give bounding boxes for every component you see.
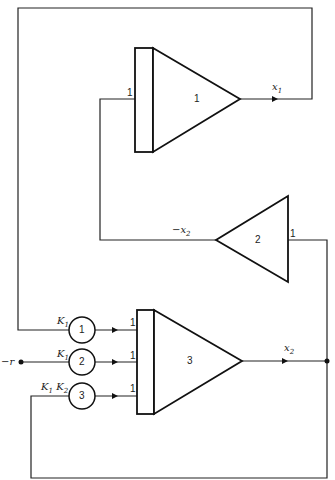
amp1-input-gain: 1 bbox=[127, 88, 133, 98]
x2-label: x2 bbox=[284, 343, 294, 356]
amp3-triangle bbox=[154, 310, 242, 414]
arrow-pot1 bbox=[112, 327, 118, 333]
arrow-x2 bbox=[282, 358, 288, 364]
pot3-coef: K1 K2 bbox=[41, 382, 68, 395]
pot1-label: 1 bbox=[79, 325, 85, 335]
junction-dot bbox=[325, 359, 330, 364]
pot2-coef: K1 bbox=[57, 349, 69, 362]
diagram-canvas: 1 1 x1 2 1 −x2 3 1 1 1 x2 1 2 3 K1 K1 K1… bbox=[0, 0, 335, 480]
amp3-summing-block bbox=[137, 310, 154, 414]
pot3-label: 3 bbox=[79, 391, 85, 401]
pot2-label: 2 bbox=[79, 357, 85, 367]
amp2-triangle bbox=[216, 196, 288, 282]
neg-x2-label: −x2 bbox=[172, 225, 191, 238]
amp1-label: 1 bbox=[194, 94, 200, 104]
amp2-label: 2 bbox=[255, 235, 261, 245]
amp3-gain-3: 1 bbox=[130, 384, 136, 394]
pot1-coef: K1 bbox=[57, 316, 69, 329]
arrow-pot3 bbox=[112, 393, 118, 399]
arrow-x1 bbox=[272, 96, 278, 102]
input-r-label: −r bbox=[1, 357, 14, 367]
amp3-gain-1: 1 bbox=[130, 318, 136, 328]
amp1-summing-block bbox=[135, 48, 153, 152]
amp3-gain-2: 1 bbox=[130, 351, 136, 361]
amp3-label: 3 bbox=[187, 356, 193, 366]
amp2-input-gain: 1 bbox=[290, 229, 296, 239]
input-dot bbox=[19, 360, 24, 365]
diagram-wires bbox=[0, 0, 335, 480]
arrow-pot2 bbox=[112, 359, 118, 365]
x1-label: x1 bbox=[272, 82, 282, 95]
